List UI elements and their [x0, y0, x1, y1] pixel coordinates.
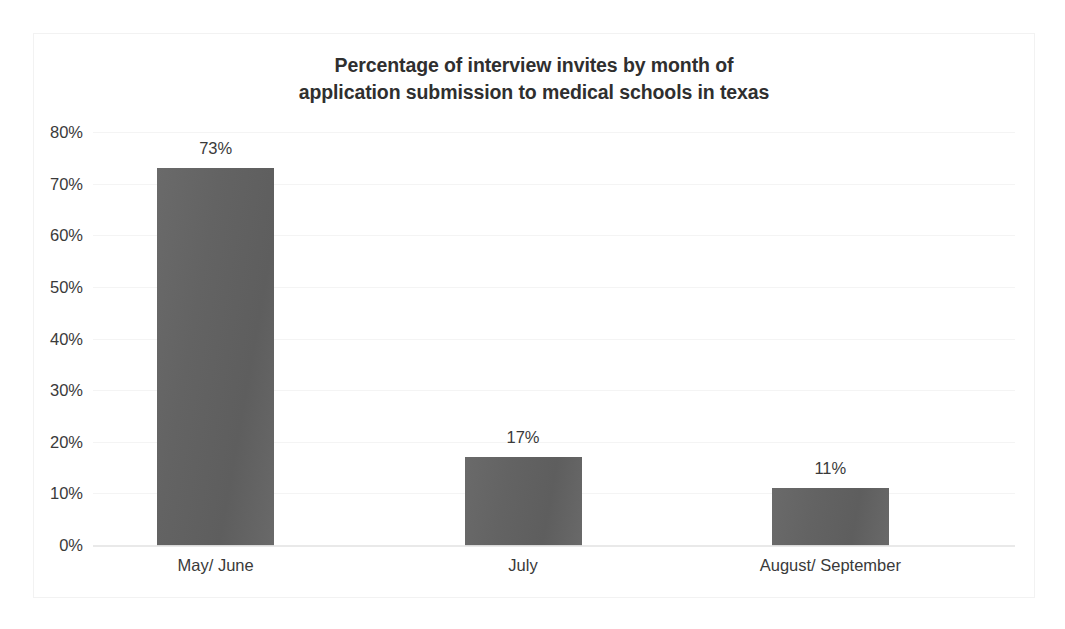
bar-group[interactable]: 11%: [772, 132, 889, 545]
y-axis-tick-label: 80%: [33, 123, 83, 142]
bar-value-label: 17%: [506, 428, 539, 447]
y-axis-tick-label: 10%: [33, 484, 83, 503]
y-axis-tick-label: 0%: [33, 536, 83, 555]
bar-group[interactable]: 73%: [157, 132, 274, 545]
x-axis-category-label: August/ September: [760, 556, 901, 575]
y-axis-tick-label: 60%: [33, 226, 83, 245]
y-axis-tick-label: 50%: [33, 277, 83, 296]
bar-chart: Percentage of interview invites by month…: [0, 0, 1065, 629]
chart-title-line-1: Percentage of interview invites by month…: [33, 52, 1035, 79]
bar-july[interactable]: [465, 457, 582, 545]
y-axis-tick-label: 70%: [33, 174, 83, 193]
y-axis-tick-label: 40%: [33, 329, 83, 348]
y-axis: 0%10%20%30%40%50%60%70%80%: [33, 132, 83, 545]
bar-may-june[interactable]: [157, 168, 274, 545]
bar-value-label: 11%: [814, 459, 846, 478]
x-axis: May/ JuneJulyAugust/ September: [93, 556, 1015, 586]
y-axis-tick-label: 20%: [33, 432, 83, 451]
y-axis-tick-label: 30%: [33, 381, 83, 400]
chart-title: Percentage of interview invites by month…: [33, 52, 1035, 106]
bar-value-label: 73%: [199, 139, 232, 158]
gridline-0: [93, 545, 1015, 547]
bar-group[interactable]: 17%: [465, 132, 582, 545]
chart-title-line-2: application submission to medical school…: [33, 79, 1035, 106]
x-axis-category-label: July: [508, 556, 537, 575]
x-axis-category-label: May/ June: [178, 556, 254, 575]
bar-august-september[interactable]: [772, 488, 889, 545]
bars-layer: 73%17%11%: [93, 132, 1015, 545]
